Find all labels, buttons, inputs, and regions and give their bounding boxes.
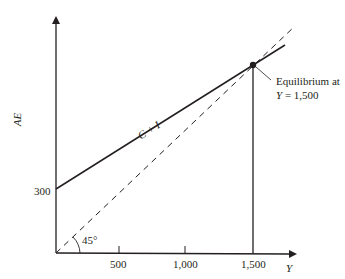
x-tick-label-1500: 1,500 <box>241 258 266 271</box>
y-axis-label: AE <box>11 113 24 126</box>
equilibrium-annotation-line2: Y = 1,500 <box>276 89 319 102</box>
x-axis <box>56 253 290 254</box>
equilibrium-point <box>250 62 256 68</box>
equilibrium-annotation-value: = 1,500 <box>282 89 318 101</box>
x-tick-label-500: 500 <box>110 258 127 271</box>
angle-arc <box>73 237 80 253</box>
equilibrium-annotation-line1: Equilibrium at <box>276 75 340 88</box>
y-tick-label-300: 300 <box>34 185 51 198</box>
angle-label: 45° <box>82 234 97 247</box>
annotation-leader-line <box>256 67 271 80</box>
x-axis-label: Y <box>286 262 292 275</box>
chart-canvas <box>0 0 345 279</box>
y-axis-arrow-icon <box>52 16 60 24</box>
x-tick-label-1000: 1,000 <box>173 258 198 271</box>
45-degree-line <box>56 26 295 253</box>
x-axis-arrow-icon <box>289 250 297 258</box>
